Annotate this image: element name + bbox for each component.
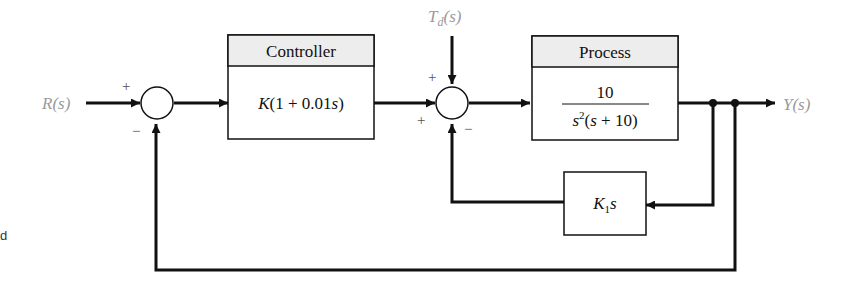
sum2-plus-top-sign: +	[428, 69, 436, 85]
disturbance-signal-label: Td(s)	[428, 7, 462, 29]
sum2-plus-left-sign: +	[417, 112, 425, 128]
summing-junction-1	[141, 87, 173, 119]
junction-dot	[709, 99, 717, 107]
sum1-plus-sign: +	[122, 78, 130, 94]
process-numerator: 10	[597, 83, 614, 102]
block-diagram: R(s) Td(s) Y(s) + − + + − Controller K(1…	[0, 0, 850, 289]
input-signal-label: R(s)	[41, 94, 71, 113]
sum1-minus-sign: −	[132, 123, 140, 139]
controller-transfer-function: K(1 + 0.01s)	[257, 94, 344, 113]
summing-junction-2	[436, 87, 468, 119]
process-header: Process	[579, 43, 631, 62]
sum2-minus-sign: −	[464, 121, 472, 137]
junction-dot	[731, 99, 739, 107]
controller-header: Controller	[266, 42, 336, 61]
output-signal-label: Y(s)	[783, 95, 811, 114]
